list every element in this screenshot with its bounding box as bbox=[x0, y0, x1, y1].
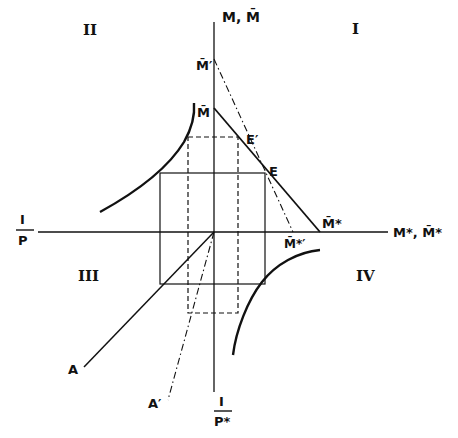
budget-line-solid bbox=[214, 108, 320, 232]
point-a: A bbox=[68, 362, 78, 377]
diagram-svg: M, M̄ M*, M̄* I P I P* I II III IV M̄′ M… bbox=[0, 0, 458, 438]
bottom-axis-label-numerator: I bbox=[219, 394, 224, 409]
quadrant-2-curve bbox=[100, 103, 194, 212]
point-e-prime: E′ bbox=[246, 132, 259, 147]
quadrant-4-curve bbox=[233, 250, 320, 355]
quadrant-3-label: III bbox=[78, 267, 99, 285]
point-m-bar-star-prime: M̄*′ bbox=[284, 236, 305, 251]
left-axis-label-numerator: I bbox=[20, 212, 25, 227]
vertical-axis-label: M, M̄ bbox=[222, 7, 260, 25]
point-m-bar-prime: M̄′ bbox=[196, 58, 213, 73]
diagram-canvas: M, M̄ M*, M̄* I P I P* I II III IV M̄′ M… bbox=[0, 0, 458, 438]
left-axis-label-denominator: P bbox=[18, 233, 28, 248]
point-a-prime: A′ bbox=[148, 396, 162, 411]
point-e: E bbox=[269, 164, 278, 179]
point-m-bar: M̄ bbox=[197, 105, 210, 120]
dashed-rectangle bbox=[188, 137, 238, 313]
quadrant-2-label: II bbox=[83, 21, 97, 39]
horizontal-axis-label: M*, M̄* bbox=[393, 225, 442, 240]
bottom-axis-label-denominator: P* bbox=[214, 414, 231, 429]
point-m-bar-star: M̄* bbox=[322, 216, 342, 231]
ray-a-prime bbox=[168, 232, 214, 400]
quadrant-1-label: I bbox=[352, 20, 359, 38]
solid-rectangle bbox=[160, 173, 265, 284]
ray-a bbox=[84, 232, 214, 367]
quadrant-4-label: IV bbox=[356, 267, 375, 285]
